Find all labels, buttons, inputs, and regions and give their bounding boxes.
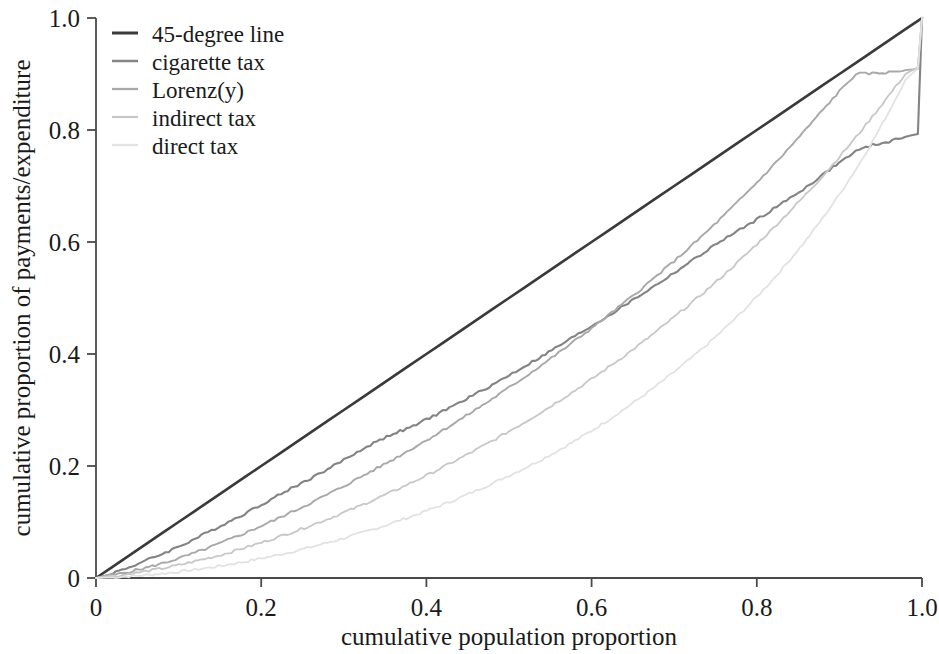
legend-label-3: indirect tax bbox=[152, 106, 257, 131]
y-tick-label: 0.8 bbox=[49, 117, 80, 144]
legend-label-0: 45-degree line bbox=[152, 22, 284, 47]
x-tick-label: 1.0 bbox=[906, 594, 937, 621]
x-tick-label: 0.8 bbox=[741, 594, 772, 621]
concentration-curve-chart: 00.20.40.60.81.0 00.20.40.60.81.0 45-deg… bbox=[0, 0, 939, 654]
y-tick-label: 0.4 bbox=[49, 341, 81, 368]
y-tick-label: 1.0 bbox=[49, 5, 80, 32]
x-tick-label: 0.6 bbox=[576, 594, 607, 621]
y-tick-label: 0.6 bbox=[49, 229, 80, 256]
y-axis-title: cumulative proportion of payments/expend… bbox=[8, 60, 35, 537]
x-axis-title: cumulative population proportion bbox=[341, 623, 678, 650]
x-tick-label: 0.4 bbox=[411, 594, 443, 621]
y-tick-label: 0.2 bbox=[49, 453, 80, 480]
chart-background bbox=[0, 0, 939, 654]
legend-label-1: cigarette tax bbox=[152, 50, 266, 75]
y-tick-label: 0 bbox=[68, 565, 81, 592]
legend-label-4: direct tax bbox=[152, 134, 239, 159]
x-tick-label: 0 bbox=[90, 594, 103, 621]
x-tick-label: 0.2 bbox=[246, 594, 277, 621]
legend-label-2: Lorenz(y) bbox=[152, 78, 244, 103]
chart-figure: 00.20.40.60.81.0 00.20.40.60.81.0 45-deg… bbox=[0, 0, 939, 654]
